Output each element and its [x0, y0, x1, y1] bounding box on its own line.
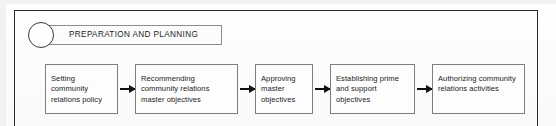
right-arrow-icon: [120, 88, 135, 90]
flow-step-box: Approving master objectives: [255, 64, 313, 114]
scan-edge-smudge-left: [0, 0, 6, 126]
flow-step-box: Setting community relations policy: [45, 64, 118, 114]
scan-edge-smudge-top: [0, 0, 556, 4]
flow-step-label: Approving master objectives: [261, 74, 309, 105]
flow-step-label: Establishing prime and support objective…: [336, 74, 411, 105]
flow-step-label: Authorizing community relations activiti…: [438, 74, 521, 95]
right-arrow-icon: [417, 88, 432, 90]
phase-number-circle: [28, 22, 54, 48]
flowchart-figure: 1 PREPARATION AND PLANNING Setting commu…: [0, 0, 556, 126]
flow-step-box: Establishing prime and support objective…: [330, 64, 415, 114]
flow-step-label: Recommending community relations master …: [141, 74, 234, 105]
right-arrow-icon: [315, 88, 330, 90]
page-title: PREPARATION AND PLANNING: [69, 25, 229, 45]
flow-step-label: Setting community relations policy: [51, 74, 114, 105]
flow-step-box: Authorizing community relations activiti…: [432, 64, 525, 114]
flow-step-box: Recommending community relations master …: [135, 64, 238, 114]
right-arrow-icon: [240, 88, 255, 90]
